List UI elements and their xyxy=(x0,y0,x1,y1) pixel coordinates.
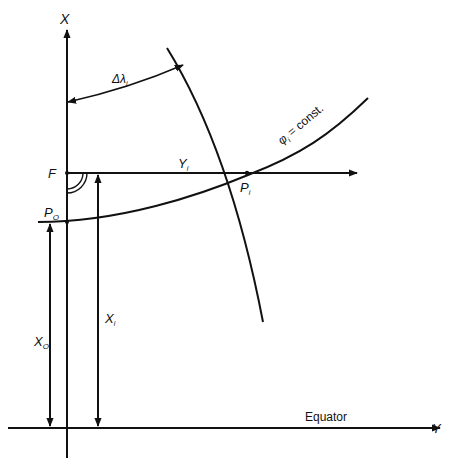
footpoint-f xyxy=(65,171,69,175)
right-angle-marker-inner xyxy=(67,173,83,189)
equator-label: Equator xyxy=(305,410,347,424)
pi-label: Pi xyxy=(240,180,251,196)
projection-diagram: X Y Equator Δλi Xi XO F Yi PO Pi φi = co… xyxy=(0,0,449,474)
xo-label: XO xyxy=(33,334,49,351)
delta-lambda-label: Δλi xyxy=(111,72,128,87)
footpoint-label: F xyxy=(48,166,57,181)
phi-const-label: φi = const. xyxy=(275,101,327,148)
x-axis-label: X xyxy=(59,11,70,27)
origin-point-po xyxy=(65,220,69,224)
right-angle-marker xyxy=(67,173,87,193)
point-pi xyxy=(245,171,249,175)
po-label: PO xyxy=(44,205,59,222)
xi-label: Xi xyxy=(104,311,116,327)
yi-label: Yi xyxy=(178,156,189,172)
y-axis-label: Y xyxy=(432,421,442,436)
